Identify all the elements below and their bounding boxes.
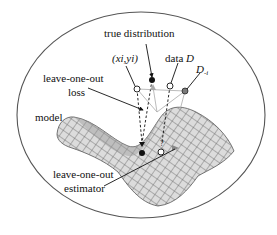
label-data: data D xyxy=(165,52,194,64)
loo-loss-point xyxy=(139,150,145,156)
true-distribution-point xyxy=(149,77,155,83)
leave-one-out-diagram: ? true distribution (xi,yi) data D D-i l… xyxy=(0,0,277,235)
label-model: model xyxy=(35,111,63,123)
label-loo-loss-1: leave-one-out xyxy=(43,72,103,84)
label-loo-estimator-2: estimator xyxy=(64,182,105,194)
data-D-point xyxy=(167,83,173,89)
sample-point-xi-yi xyxy=(134,86,140,92)
label-sample-point: (xi,yi) xyxy=(112,52,138,65)
estimator-point xyxy=(158,149,164,155)
unknown-mark: ? xyxy=(160,139,164,148)
label-loo-loss-2: loss xyxy=(68,86,85,98)
label-loo-estimator-1: leave-one-out xyxy=(53,168,113,180)
label-true-distribution: true distribution xyxy=(104,27,175,39)
label-data-minus-i: D-i xyxy=(195,63,208,77)
